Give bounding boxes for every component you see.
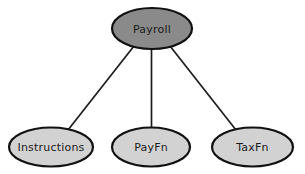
node-payfn-label: PayFn	[134, 141, 168, 154]
node-taxfn-label: TaxFn	[235, 141, 268, 154]
edge-payroll-instructions	[68, 46, 134, 130]
edge-payroll-taxfn	[170, 46, 236, 130]
node-payfn[interactable]: PayFn	[112, 128, 190, 167]
graph-svg: Instructions PayFn TaxFn Payroll	[0, 0, 305, 174]
node-payroll[interactable]: Payroll	[112, 8, 192, 49]
node-payroll-label: Payroll	[133, 23, 171, 36]
node-instructions-label: Instructions	[17, 141, 84, 154]
edge-group	[68, 46, 236, 130]
node-taxfn[interactable]: TaxFn	[212, 128, 293, 167]
diagram-canvas: Instructions PayFn TaxFn Payroll	[0, 0, 305, 174]
node-instructions[interactable]: Instructions	[9, 128, 93, 167]
